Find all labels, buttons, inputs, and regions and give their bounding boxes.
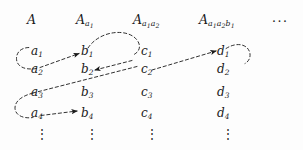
cell-b2: b2 — [81, 63, 94, 76]
cell-a4: a4 — [31, 107, 43, 120]
header-col-b: Aa1 — [76, 14, 94, 29]
cell-a1: a1 — [31, 45, 43, 58]
arrow-a2-to-b1-path — [40, 54, 79, 68]
cell-d4: d4 — [217, 107, 230, 120]
loop-b1-to-c1-path — [88, 32, 139, 54]
header-col-d-sub: a1a2b1 — [208, 19, 235, 28]
loop-d1-right-path — [226, 45, 250, 64]
header-col-a: A — [27, 14, 36, 27]
header-col-c-sub: a1a2 — [142, 19, 160, 28]
header-col-a-base: A — [27, 12, 36, 27]
column-d-ellipsis: ⋮ — [222, 128, 234, 140]
cell-b3: b3 — [81, 86, 94, 99]
arrow-c2-to-b2-path — [95, 61, 132, 71]
header-col-c-base: A — [133, 12, 142, 27]
header-col-d-base: A — [199, 12, 208, 27]
cell-d1: d1 — [217, 45, 230, 58]
arrow-a4-to-b4-path — [41, 111, 77, 116]
header-col-c: Aa1a2 — [133, 14, 160, 29]
cell-c2: c2 — [141, 63, 153, 76]
cell-c3: c3 — [141, 86, 153, 99]
arrow-c2-to-d1-path — [152, 51, 216, 70]
header-col-b-base: A — [76, 12, 85, 27]
cell-c1: c1 — [141, 45, 153, 58]
cell-c4: c4 — [141, 107, 153, 120]
column-b-ellipsis: ⋮ — [86, 128, 98, 140]
header-col-b-sub: a1 — [85, 19, 94, 28]
cell-b1: b1 — [81, 45, 94, 58]
cell-a3: a3 — [31, 86, 43, 99]
cell-a2: a2 — [31, 63, 43, 76]
array-tree-figure: A Aa1 Aa1a2 Aa1a2b1 ··· a1 a2 a3 a4 ⋮ b1… — [0, 0, 303, 150]
header-col-d: Aa1a2b1 — [199, 14, 235, 29]
cell-d2: d2 — [217, 63, 230, 76]
column-a-ellipsis: ⋮ — [36, 128, 48, 140]
cell-d3: d3 — [217, 86, 230, 99]
column-c-ellipsis: ⋮ — [146, 128, 158, 140]
header-ellipsis: ··· — [272, 16, 288, 29]
cell-b4: b4 — [81, 107, 94, 120]
